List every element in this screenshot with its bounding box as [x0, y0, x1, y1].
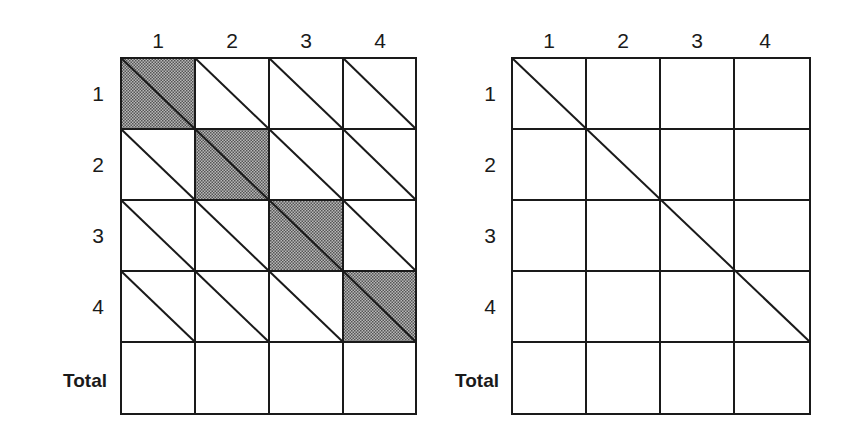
right-col-header-4: 4 — [759, 29, 771, 52]
right-row-header-2: 2 — [484, 153, 496, 176]
left-row-header-3: 3 — [92, 224, 104, 247]
left-col-header-2: 2 — [226, 29, 238, 52]
left-col-header-4: 4 — [374, 29, 386, 52]
diagram-canvas: 1 2 3 4 1 2 3 4 Total 1 2 3 4 1 2 3 4 To… — [0, 0, 851, 433]
right-row-header-3: 3 — [484, 224, 496, 247]
left-row-header-total: Total — [63, 370, 107, 391]
left-col-header-3: 3 — [300, 29, 312, 52]
left-row-header-2: 2 — [92, 153, 104, 176]
right-row-header-4: 4 — [484, 295, 496, 318]
right-row-header-total: Total — [455, 370, 499, 391]
left-grid: 1 2 3 4 1 2 3 4 Total — [63, 29, 416, 414]
right-col-header-1: 1 — [543, 29, 555, 52]
right-row-header-1: 1 — [484, 82, 496, 105]
right-col-header-3: 3 — [691, 29, 703, 52]
right-grid: 1 2 3 4 1 2 3 4 Total — [455, 29, 810, 414]
left-col-header-1: 1 — [152, 29, 164, 52]
right-col-header-2: 2 — [617, 29, 629, 52]
left-row-header-4: 4 — [92, 295, 104, 318]
left-row-header-1: 1 — [92, 82, 104, 105]
